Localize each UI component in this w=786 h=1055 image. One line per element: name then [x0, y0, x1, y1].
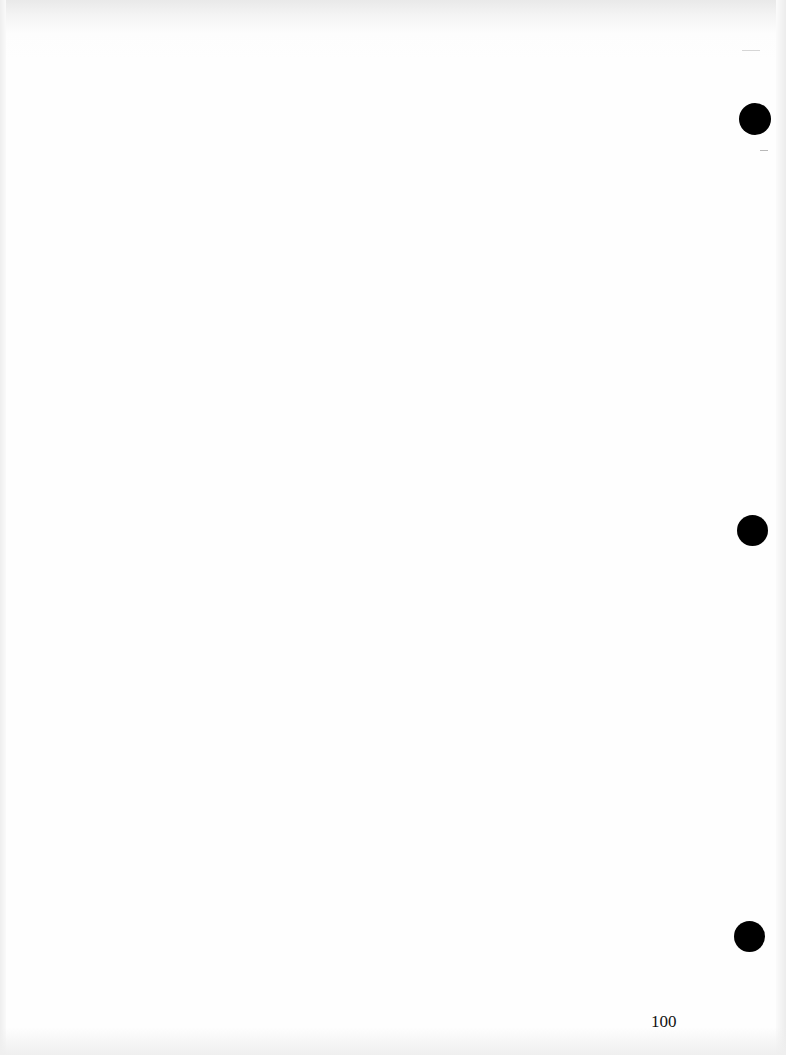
page-number: 100 — [651, 1012, 677, 1032]
scan-speck — [760, 150, 768, 151]
scan-speck — [742, 50, 760, 51]
scanned-page: 100 — [0, 0, 786, 1055]
scan-shadow-right — [776, 0, 786, 1055]
hole-punch-middle — [737, 515, 768, 546]
hole-punch-top — [739, 103, 771, 135]
hole-punch-bottom — [734, 921, 765, 952]
scan-shadow-left — [0, 0, 6, 1055]
